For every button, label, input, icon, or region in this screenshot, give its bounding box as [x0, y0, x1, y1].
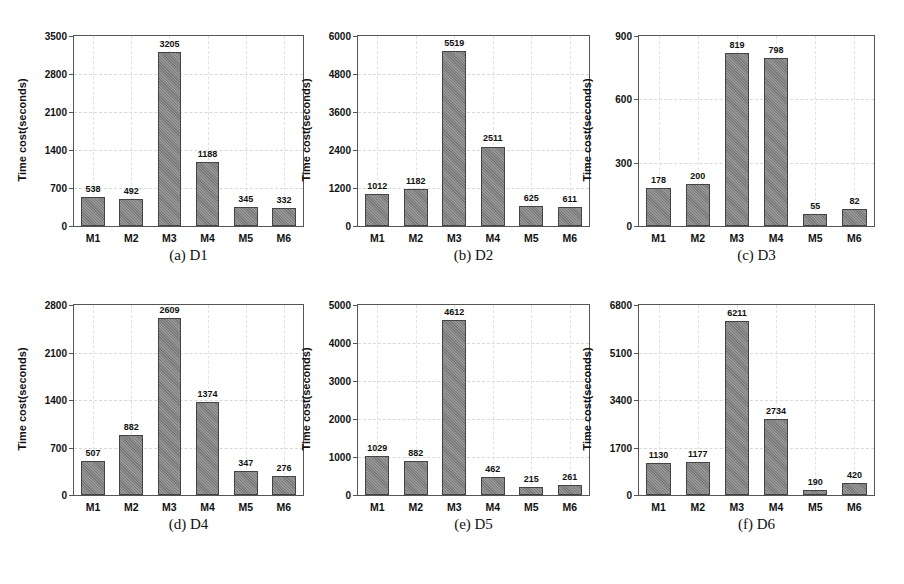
- bar-m3: [442, 320, 466, 495]
- x-tick-label: M5: [238, 232, 253, 244]
- y-tick-label: 0: [592, 221, 632, 232]
- bar-value-label: 507: [86, 448, 101, 458]
- y-tick-mark: [353, 457, 357, 458]
- bar-value-label: 2609: [159, 305, 179, 315]
- gridline-horizontal: [74, 188, 303, 189]
- bar-m3: [158, 318, 182, 495]
- y-tick-label: 0: [27, 490, 67, 501]
- bar-m6: [272, 208, 296, 226]
- y-tick-mark: [69, 400, 73, 401]
- bar-m4: [196, 402, 220, 495]
- gridline-horizontal: [639, 163, 874, 164]
- bar-m2: [404, 189, 428, 226]
- bar-value-label: 2511: [483, 133, 503, 143]
- y-tick-label: 1700: [592, 442, 632, 453]
- y-tick-mark: [69, 448, 73, 449]
- gridline-horizontal: [639, 400, 874, 401]
- y-tick-label: 2000: [311, 414, 351, 425]
- bar-m1: [365, 194, 389, 226]
- x-tick-label: M3: [162, 501, 177, 513]
- x-tick-label: M3: [447, 232, 462, 244]
- y-tick-label: 3600: [311, 107, 351, 118]
- y-tick-label: 1200: [311, 183, 351, 194]
- bar-value-label: 332: [276, 195, 291, 205]
- x-tick-label: M3: [162, 232, 177, 244]
- bar-value-label: 1029: [367, 443, 387, 453]
- x-tick-label: M2: [690, 501, 705, 513]
- gridline-horizontal: [74, 448, 303, 449]
- y-tick-mark: [353, 74, 357, 75]
- bar-m2: [404, 461, 428, 495]
- x-tick-label: M2: [124, 232, 139, 244]
- y-tick-mark: [353, 495, 357, 496]
- y-tick-mark: [69, 150, 73, 151]
- bar-m4: [481, 147, 505, 227]
- y-tick-mark: [634, 99, 638, 100]
- x-tick-label: M5: [524, 232, 539, 244]
- y-axis-label: Time cost(seconds): [16, 319, 28, 479]
- plot-area: 10298824612462215261: [357, 304, 590, 496]
- y-tick-label: 2100: [27, 347, 67, 358]
- y-tick-label: 300: [592, 157, 632, 168]
- plot-area: 1012118255192511625611: [357, 35, 590, 227]
- bar-m1: [81, 197, 105, 226]
- bar-m1: [365, 456, 389, 495]
- bar-value-label: 190: [808, 477, 823, 487]
- x-tick-label: M2: [408, 232, 423, 244]
- bar-m5: [803, 214, 827, 226]
- bar-value-label: 82: [849, 196, 859, 206]
- plot-area: 1130117762112734190420: [638, 304, 875, 496]
- y-tick-mark: [69, 74, 73, 75]
- y-tick-mark: [353, 305, 357, 306]
- x-tick-label: M6: [847, 501, 862, 513]
- bar-value-label: 611: [562, 194, 577, 204]
- bar-m4: [196, 162, 220, 226]
- x-tick-label: M3: [730, 232, 745, 244]
- y-tick-label: 600: [592, 94, 632, 105]
- subfigure-caption: (f) D6: [738, 516, 775, 533]
- y-tick-mark: [353, 36, 357, 37]
- y-tick-label: 700: [27, 183, 67, 194]
- y-tick-label: 2800: [27, 300, 67, 311]
- bar-m5: [803, 490, 827, 495]
- bar-m5: [519, 206, 543, 226]
- gridline-horizontal: [639, 353, 874, 354]
- bar-value-label: 347: [238, 458, 253, 468]
- bar-value-label: 882: [408, 448, 423, 458]
- y-tick-label: 0: [311, 221, 351, 232]
- y-tick-mark: [69, 495, 73, 496]
- bar-m6: [558, 207, 582, 226]
- bar-m3: [442, 51, 466, 226]
- bar-m1: [646, 188, 670, 226]
- x-tick-label: M6: [277, 501, 292, 513]
- y-axis-label: Time cost(seconds): [16, 50, 28, 210]
- bar-m4: [764, 419, 788, 495]
- bar-m6: [842, 209, 866, 226]
- y-tick-label: 0: [27, 221, 67, 232]
- x-tick-label: M1: [86, 501, 101, 513]
- y-tick-label: 3400: [592, 395, 632, 406]
- subfigure-caption: (c) D3: [737, 247, 776, 264]
- gridline-horizontal: [358, 112, 589, 113]
- y-tick-mark: [69, 112, 73, 113]
- gridline-horizontal: [358, 188, 589, 189]
- y-tick-mark: [634, 305, 638, 306]
- bar-value-label: 5519: [444, 38, 464, 48]
- y-tick-mark: [69, 353, 73, 354]
- y-tick-label: 3500: [27, 31, 67, 42]
- y-axis-label: Time cost(seconds): [300, 50, 312, 210]
- plot-area: 1782008197985582: [638, 35, 875, 227]
- bar-value-label: 462: [485, 464, 500, 474]
- y-tick-mark: [69, 305, 73, 306]
- y-tick-label: 2400: [311, 145, 351, 156]
- plot-area: 50788226091374347276: [73, 304, 304, 496]
- x-tick-label: M4: [769, 232, 784, 244]
- y-tick-mark: [353, 343, 357, 344]
- gridline-vertical: [570, 305, 571, 495]
- y-tick-mark: [353, 188, 357, 189]
- gridline-horizontal: [639, 99, 874, 100]
- subfigure-caption: (b) D2: [454, 247, 494, 264]
- y-tick-label: 1000: [311, 452, 351, 463]
- x-tick-label: M5: [238, 501, 253, 513]
- y-tick-mark: [69, 36, 73, 37]
